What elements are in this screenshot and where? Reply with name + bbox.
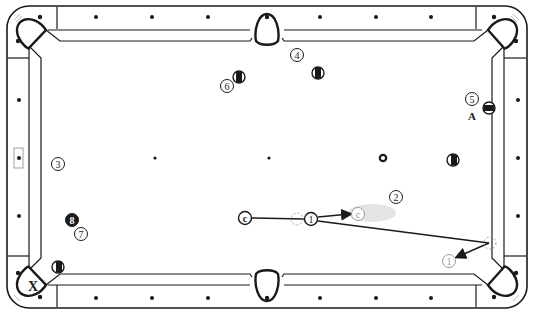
ball-4: 4 xyxy=(291,49,304,62)
center-spot xyxy=(267,156,270,159)
cue-ball: c xyxy=(239,212,252,225)
cue-to-contact-path xyxy=(252,218,304,219)
striped-ball xyxy=(233,71,245,83)
ball-1: 1 xyxy=(305,213,318,226)
striped-ball xyxy=(483,102,495,114)
head-spot xyxy=(153,156,156,159)
svg-text:1: 1 xyxy=(447,256,452,267)
striped-ball xyxy=(447,154,459,166)
ball-1-ghost-position: 1 xyxy=(443,255,456,268)
position-label-a: A xyxy=(468,110,476,122)
svg-text:8: 8 xyxy=(70,215,75,226)
ball-8: 8 xyxy=(66,214,79,227)
ball-3: 3 xyxy=(52,158,65,171)
svg-text:3: 3 xyxy=(56,159,61,170)
pool-table-diagram: 1 2 3 4 5 6 7 8 xyxy=(0,0,533,313)
ball-2: 2 xyxy=(390,191,403,204)
foot-spot xyxy=(380,155,386,161)
svg-text:7: 7 xyxy=(79,229,84,240)
ball-6: 6 xyxy=(221,80,234,93)
pocket-label-x: X xyxy=(28,279,38,294)
striped-ball xyxy=(312,67,324,79)
pool-table-svg: 1 2 3 4 5 6 7 8 xyxy=(0,0,533,313)
cue-ball-final-position: c xyxy=(352,208,365,221)
svg-text:c: c xyxy=(243,213,248,224)
ball-7: 7 xyxy=(75,228,88,241)
striped-ball xyxy=(52,261,64,273)
svg-text:6: 6 xyxy=(225,81,230,92)
svg-text:4: 4 xyxy=(295,50,300,61)
svg-text:1: 1 xyxy=(309,214,314,225)
svg-text:c: c xyxy=(356,209,361,220)
ball-5: 5 xyxy=(466,93,479,106)
svg-text:2: 2 xyxy=(394,192,399,203)
svg-text:5: 5 xyxy=(470,94,475,105)
